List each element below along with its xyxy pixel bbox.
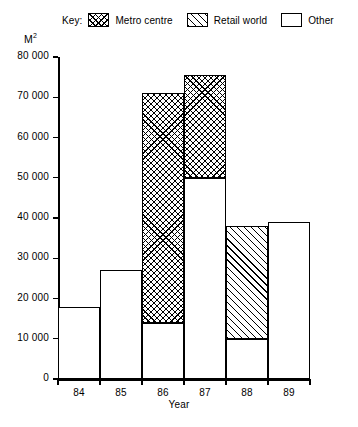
bar-column bbox=[142, 57, 184, 379]
x-axis-tick bbox=[183, 379, 184, 385]
y-axis-title-text: M bbox=[24, 33, 33, 45]
x-axis-title: Year bbox=[0, 399, 358, 410]
bar-segment bbox=[142, 93, 184, 322]
legend-swatch-metro-centre-icon bbox=[88, 13, 109, 27]
y-axis-title: M2 bbox=[24, 32, 37, 45]
y-axis-tick-label: 50 000 bbox=[17, 171, 49, 182]
y-axis-tick-label: 60 000 bbox=[17, 131, 49, 142]
bar-column bbox=[226, 57, 268, 379]
legend-label-retail-world: Retail world bbox=[214, 15, 267, 26]
x-axis-tick-label: 84 bbox=[64, 387, 94, 398]
bar-segment bbox=[268, 222, 310, 379]
legend-entry-retail-world: Retail world bbox=[187, 13, 267, 27]
x-axis-tick-label: 89 bbox=[274, 387, 304, 398]
y-axis-tick-label: 30 000 bbox=[17, 251, 49, 262]
x-axis-tick-label: 87 bbox=[190, 387, 220, 398]
bar-chart-figure: Key: Metro centre Retail world Other M2 … bbox=[0, 0, 358, 427]
y-axis-tick-label: 20 000 bbox=[17, 292, 49, 303]
x-axis-tick bbox=[267, 379, 268, 385]
y-axis-title-exponent: 2 bbox=[33, 32, 37, 39]
legend-entry-metro-centre: Metro centre bbox=[88, 13, 172, 27]
x-axis-tick bbox=[99, 379, 100, 385]
bar-segment bbox=[226, 226, 268, 339]
x-axis-tick bbox=[141, 379, 142, 385]
y-axis-tick-label: 80 000 bbox=[17, 50, 49, 61]
legend-key-label: Key: bbox=[62, 15, 82, 26]
bar-column bbox=[184, 57, 226, 379]
x-axis-tick-label: 85 bbox=[106, 387, 136, 398]
bar-segment bbox=[142, 323, 184, 379]
chart-legend: Key: Metro centre Retail world Other bbox=[62, 10, 354, 30]
x-axis-tick bbox=[225, 379, 226, 385]
x-axis-tick-label: 86 bbox=[148, 387, 178, 398]
y-axis-tick-label: 40 000 bbox=[17, 211, 49, 222]
bar-column bbox=[100, 57, 142, 379]
y-axis-tick-label: 0 bbox=[43, 372, 49, 383]
y-axis-tick-label: 10 000 bbox=[17, 332, 49, 343]
bar-column bbox=[58, 57, 100, 379]
legend-entry-other: Other bbox=[281, 13, 334, 27]
bar-segment bbox=[226, 339, 268, 379]
plot-area: 010 00020 00030 00040 00050 00060 00070 … bbox=[58, 57, 310, 379]
bar-segment bbox=[58, 307, 100, 379]
bar-column bbox=[268, 57, 310, 379]
x-axis-tick bbox=[57, 379, 58, 385]
bar-segment bbox=[100, 270, 142, 379]
legend-swatch-other-icon bbox=[281, 13, 302, 27]
legend-swatch-retail-world-icon bbox=[187, 13, 208, 27]
legend-label-metro-centre: Metro centre bbox=[115, 15, 172, 26]
legend-label-other: Other bbox=[308, 15, 334, 26]
y-axis-tick-label: 70 000 bbox=[17, 90, 49, 101]
bar-segment bbox=[184, 75, 226, 178]
x-axis-tick bbox=[309, 379, 310, 385]
bar-segment bbox=[184, 178, 226, 379]
x-axis-tick-label: 88 bbox=[232, 387, 262, 398]
